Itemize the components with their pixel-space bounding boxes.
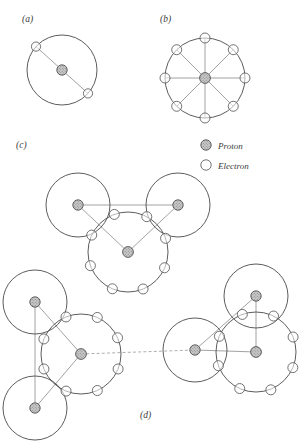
electron-marker (240, 73, 250, 83)
electron-marker (92, 312, 102, 322)
legend-item-electron: Electron (201, 160, 249, 171)
legend-item-proton: Proton (201, 140, 243, 151)
electron-marker (214, 331, 224, 341)
proton-marker (30, 297, 40, 307)
electron-marker (161, 233, 171, 243)
electron-marker (201, 160, 211, 170)
electron-marker (92, 386, 102, 396)
electron-marker (288, 332, 298, 342)
electron-marker (109, 209, 119, 219)
proton-marker (73, 200, 83, 210)
electron-marker (200, 33, 210, 43)
electron-marker (160, 73, 170, 83)
electron-marker (269, 311, 279, 321)
electron-marker (228, 101, 238, 111)
legend-label-proton: Proton (217, 141, 243, 151)
electron-marker (39, 334, 49, 344)
atom-b (160, 33, 250, 123)
panel-b-label: (b) (160, 14, 171, 25)
electron-marker (85, 261, 95, 271)
proton-marker (173, 200, 183, 210)
electron-marker (172, 101, 182, 111)
electron-marker (172, 45, 182, 55)
proton-marker (76, 349, 87, 360)
electron-marker (31, 42, 40, 51)
proton-marker (200, 73, 211, 84)
panel-c-label: (c) (16, 140, 27, 151)
electron-marker (266, 385, 276, 395)
electron-marker (61, 386, 71, 396)
proton-marker (190, 345, 200, 355)
proton-marker (251, 347, 262, 358)
electron-marker (107, 284, 117, 294)
electron-marker (160, 263, 170, 273)
electron-marker (138, 284, 148, 294)
electron-marker (142, 212, 152, 222)
proton-marker (201, 140, 211, 150)
panel-a-label: (a) (22, 14, 33, 25)
panel-d-label: (d) (140, 410, 151, 421)
electron-marker (237, 309, 247, 319)
electron-marker (39, 364, 49, 374)
proton-marker (30, 403, 40, 413)
figure-background (0, 0, 301, 446)
proton-marker (57, 65, 67, 75)
proton-marker (123, 247, 134, 258)
electron-marker (87, 230, 97, 240)
legend-label-electron: Electron (217, 161, 249, 171)
electron-marker (113, 364, 123, 374)
electron-marker (61, 312, 71, 322)
electron-marker (288, 363, 298, 373)
figure-canvas: (a) (b) (0, 0, 301, 446)
electron-marker (213, 361, 223, 371)
proton-marker (251, 291, 261, 301)
electron-marker (83, 89, 92, 98)
electron-marker (113, 333, 123, 343)
electron-marker (200, 113, 210, 123)
electron-marker (235, 384, 245, 394)
electron-marker (228, 45, 238, 55)
